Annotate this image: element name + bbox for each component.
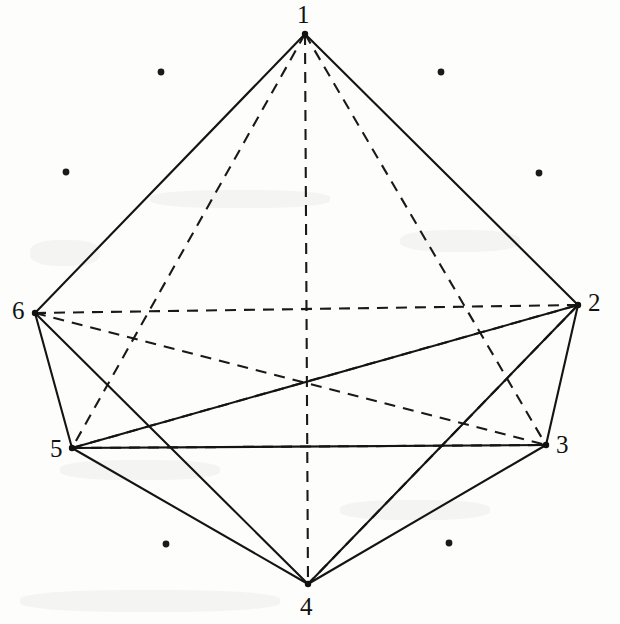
vertex-label-3: 3: [556, 432, 569, 457]
background-dot-6: [446, 540, 453, 547]
dashed-edge-layer: [35, 34, 578, 584]
edge-solid-2-3: [546, 305, 578, 445]
background-dot-3: [63, 169, 70, 176]
vertex-label-6: 6: [12, 298, 25, 323]
edge-solid-3-5: [72, 445, 546, 448]
vertex-node-5[interactable]: [69, 445, 75, 451]
edge-solid-5-2: [72, 305, 578, 448]
background-dot-4: [536, 170, 543, 177]
edge-solid-1-6: [35, 34, 305, 313]
vertex-node-1[interactable]: [302, 31, 308, 37]
vertex-label-5: 5: [50, 436, 63, 461]
edge-solid-5-4: [72, 448, 308, 584]
background-dot-layer: [63, 69, 543, 548]
background-dot-1: [158, 69, 165, 76]
vertex-node-2[interactable]: [575, 302, 581, 308]
vertex-label-1: 1: [297, 2, 310, 27]
edge-dashed-1-3: [305, 34, 546, 445]
vertex-label-2: 2: [588, 290, 601, 315]
vertex-node-4[interactable]: [305, 581, 311, 587]
figure-canvas: 123456: [0, 0, 620, 624]
edge-solid-4-3: [308, 445, 546, 584]
edge-solid-6-5: [35, 313, 72, 448]
octahedron-graph: [0, 0, 620, 624]
edge-dashed-6-3: [35, 313, 546, 445]
vertex-node-3[interactable]: [543, 442, 549, 448]
vertex-label-4: 4: [300, 594, 313, 619]
vertex-node-6[interactable]: [32, 310, 38, 316]
background-dot-5: [163, 541, 170, 548]
background-dot-2: [438, 69, 445, 76]
